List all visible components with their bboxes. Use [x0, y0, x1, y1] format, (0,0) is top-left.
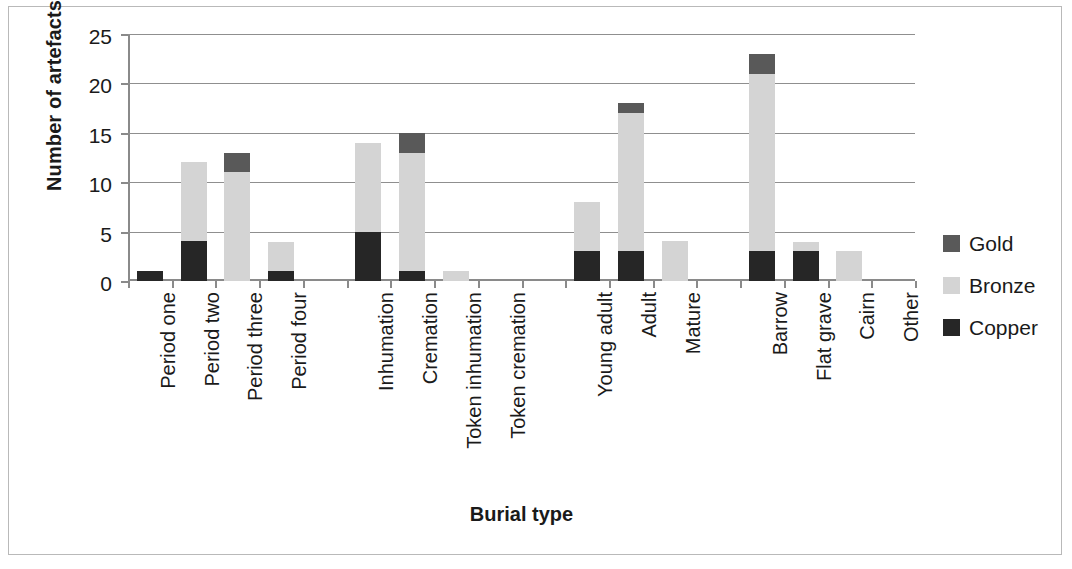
legend-swatch-icon — [943, 277, 960, 294]
x-axis-tick-labels: Period onePeriod twoPeriod threePeriod f… — [128, 292, 915, 492]
y-axis-tick: 25 — [121, 34, 128, 36]
x-axis-category-label: Token inhumation — [464, 292, 484, 449]
bar-slot — [696, 34, 740, 281]
bar-segment-copper[interactable] — [618, 251, 644, 281]
bar-slot — [478, 34, 522, 281]
x-axis-category-label: Adult — [639, 292, 659, 338]
chart-screenshot: Number of artefacts 0510152025 Period on… — [0, 0, 1072, 569]
bar-segment-copper[interactable] — [749, 251, 775, 281]
bar-slot — [390, 34, 434, 281]
y-axis-tick: 15 — [121, 133, 128, 135]
x-axis-category-label: Mature — [683, 292, 703, 354]
bar-segment-copper[interactable] — [268, 271, 294, 281]
y-axis-tick: 5 — [121, 232, 128, 234]
bar-segment-bronze[interactable] — [268, 242, 294, 272]
stacked-bar[interactable] — [181, 162, 207, 281]
bar-slot — [740, 34, 784, 281]
x-axis-category-label: Period one — [158, 292, 178, 389]
chart-legend: GoldBronzeCopper — [943, 222, 1038, 348]
bar-segment-bronze[interactable] — [618, 113, 644, 251]
x-axis-tick — [128, 281, 130, 288]
legend-item-bronze[interactable]: Bronze — [943, 264, 1038, 306]
bar-segment-copper[interactable] — [181, 241, 207, 281]
x-axis-category-label: Token cremation — [508, 292, 528, 439]
x-axis-tick — [347, 281, 349, 288]
x-axis-category-label: Cremation — [420, 292, 440, 384]
bar-segment-bronze[interactable] — [355, 143, 381, 232]
bar-slot — [609, 34, 653, 281]
y-axis-tick-label: 15 — [89, 124, 112, 145]
x-axis-tick — [215, 281, 217, 288]
legend-label: Copper — [969, 317, 1038, 338]
bar-slot — [434, 34, 478, 281]
stacked-bar[interactable] — [399, 133, 425, 281]
x-axis-tick — [522, 281, 524, 288]
bar-segment-bronze[interactable] — [181, 162, 207, 241]
y-axis-tick-label: 5 — [100, 223, 112, 244]
legend-label: Bronze — [969, 275, 1036, 296]
y-axis-tick-label: 20 — [89, 75, 112, 96]
legend-swatch-icon — [943, 235, 960, 252]
bar-segment-copper[interactable] — [399, 271, 425, 281]
bar-segment-gold[interactable] — [399, 133, 425, 153]
bar-slot — [522, 34, 566, 281]
stacked-bar[interactable] — [574, 202, 600, 281]
stacked-bar[interactable] — [662, 241, 688, 281]
legend-item-gold[interactable]: Gold — [943, 222, 1038, 264]
x-axis-category-label: Period four — [289, 292, 309, 390]
x-axis-category-label: Other — [901, 292, 921, 342]
stacked-bar[interactable] — [443, 271, 469, 281]
bar-segment-bronze[interactable] — [749, 74, 775, 252]
bar-segment-copper[interactable] — [793, 251, 819, 281]
bar-segment-bronze[interactable] — [224, 172, 250, 281]
x-axis-category-label: Young adult — [595, 292, 615, 397]
x-axis-tick — [828, 281, 830, 288]
bar-slot — [215, 34, 259, 281]
bar-segment-bronze[interactable] — [443, 271, 469, 281]
bar-slot — [784, 34, 828, 281]
bar-segment-copper[interactable] — [137, 271, 163, 281]
x-axis-tick — [609, 281, 611, 288]
y-axis-tick: 0 — [121, 281, 128, 283]
y-axis-tick-label: 0 — [100, 273, 112, 294]
y-axis-title: Number of artefacts — [43, 0, 66, 226]
bar-segment-bronze[interactable] — [574, 202, 600, 251]
stacked-bar[interactable] — [618, 103, 644, 281]
bar-segment-bronze[interactable] — [793, 242, 819, 252]
legend-swatch-icon — [943, 319, 960, 336]
x-axis-tick — [915, 281, 917, 288]
bar-segment-bronze[interactable] — [399, 153, 425, 272]
x-axis-category-label: Cairn — [857, 292, 877, 340]
legend-label: Gold — [969, 233, 1013, 254]
bar-segment-copper[interactable] — [574, 251, 600, 281]
bar-slot — [653, 34, 697, 281]
bar-segment-bronze[interactable] — [662, 241, 688, 281]
stacked-bar[interactable] — [793, 242, 819, 282]
bar-segment-gold[interactable] — [618, 103, 644, 113]
x-axis-tick — [565, 281, 567, 288]
bar-segment-copper[interactable] — [355, 232, 381, 281]
x-axis-tick — [871, 281, 873, 288]
stacked-bar[interactable] — [355, 143, 381, 281]
legend-item-copper[interactable]: Copper — [943, 306, 1038, 348]
bar-slot — [303, 34, 347, 281]
x-axis-tick — [259, 281, 261, 288]
bar-segment-gold[interactable] — [224, 153, 250, 173]
x-axis-tick — [653, 281, 655, 288]
stacked-bar[interactable] — [224, 153, 250, 281]
stacked-bar[interactable] — [836, 251, 862, 281]
bar-slot — [828, 34, 872, 281]
x-axis-tick — [478, 281, 480, 288]
stacked-bar[interactable] — [749, 54, 775, 281]
x-axis-tick — [390, 281, 392, 288]
bar-slot — [128, 34, 172, 281]
bar-segment-gold[interactable] — [749, 54, 775, 74]
x-axis-category-label: Inhumation — [376, 292, 396, 391]
bar-segment-bronze[interactable] — [836, 251, 862, 281]
x-axis-tick — [696, 281, 698, 288]
stacked-bar[interactable] — [137, 271, 163, 281]
bar-slot — [259, 34, 303, 281]
stacked-bar[interactable] — [268, 242, 294, 282]
bar-slot — [172, 34, 216, 281]
x-axis-tick — [434, 281, 436, 288]
